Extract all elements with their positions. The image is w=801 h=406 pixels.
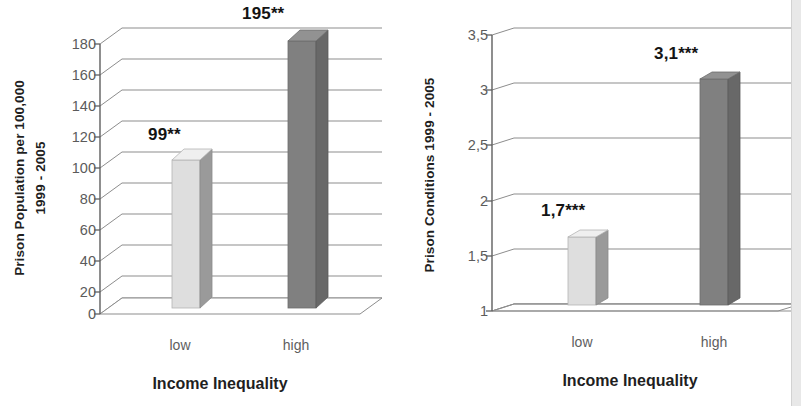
left-x-axis-title: Income Inequality [90,375,350,393]
right-bar-high [700,72,740,305]
right-gridline-2 [492,194,801,201]
left-gridline-180 [100,28,382,44]
right-gridline-3-5 [492,28,801,35]
left-bar-low [172,149,212,308]
left-gridline-140 [100,90,382,106]
right-xcat-high: high [674,334,754,350]
left-data-label-high-value: 195 [242,4,271,23]
left-gridline-80 [100,183,382,199]
left-data-label-low-value: 99 [148,125,167,144]
left-xcat-high: high [256,337,336,353]
left-bar-high [288,30,328,308]
right-data-label-low: 1,7*** [541,201,585,221]
left-data-label-high: 195** [242,4,284,24]
right-bar-low [568,230,608,305]
left-gridline-100 [100,152,382,168]
chart-prison-population: Prison Population per 100,000 1999 - 200… [0,0,400,406]
left-xcat-low: low [140,337,220,353]
right-data-label-low-stars: *** [565,201,585,220]
right-gridline-2-5 [492,138,801,145]
left-gridline-60 [100,214,382,230]
left-floor [100,298,382,314]
left-data-label-low-stars: ** [167,125,180,144]
figure-canvas: Prison Population per 100,000 1999 - 200… [0,0,801,406]
right-xcat-low: low [542,334,622,350]
scan-edge-strip [791,0,801,406]
left-data-label-low: 99** [148,125,181,145]
chart-prison-conditions: Prison Conditions 1999 - 2005 3,5 3 2,5 … [400,0,801,406]
right-data-label-high-value: 3,1 [654,44,678,63]
right-gridline-3 [492,83,801,90]
right-data-label-low-value: 1,7 [541,201,565,220]
left-gridline-160 [100,59,382,75]
left-data-label-high-stars: ** [271,4,284,23]
right-data-label-high-stars: *** [678,44,698,63]
right-gridline-1-5 [492,249,801,256]
left-gridline-20 [100,276,382,292]
right-floor [492,304,801,311]
right-x-axis-title: Income Inequality [500,372,760,390]
left-gridline-120 [100,121,382,137]
right-data-label-high: 3,1*** [654,44,698,64]
left-gridline-40 [100,245,382,261]
